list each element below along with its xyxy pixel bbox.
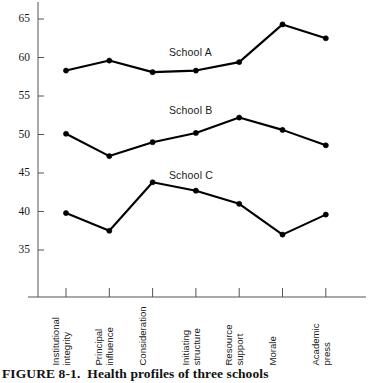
data-point [237,115,242,120]
x-category-line: Academic [311,324,322,366]
y-tick-label: 40 [4,206,30,218]
y-tick-label: 65 [4,13,30,25]
data-point [150,70,155,75]
y-tick-label: 50 [4,129,30,141]
figure-caption: FIGURE 8-1. Health profiles of three sch… [2,366,366,383]
y-axis-tick-labels: 35404550556065 [0,0,30,300]
data-point [150,180,155,185]
series-label-school-a: School A [169,46,212,58]
x-category-line: Institutional [51,317,62,366]
x-category-line: Consideration [138,307,149,366]
series-label-school-b: School B [169,104,213,116]
data-point [193,130,198,135]
figure-root: 35404550556065 School ASchool BSchool C … [0,0,368,383]
data-point [280,232,285,237]
data-point [323,143,328,148]
x-category-line: influence [106,328,117,366]
data-point [150,140,155,145]
data-point [323,212,328,217]
data-point [107,58,112,63]
data-point [280,22,285,27]
y-tick-label: 55 [4,90,30,102]
y-tick-label: 45 [4,167,30,179]
data-point [237,201,242,206]
x-category-line: Initiating [181,330,192,366]
data-point [107,228,112,233]
series-school-c [63,180,328,238]
data-point [280,127,285,132]
series-label-school-c: School C [169,169,213,181]
x-category-line: integrity [62,332,73,366]
data-point [63,210,68,215]
x-category-line: structure [192,329,203,366]
series-line [66,118,326,157]
x-category-line: support [236,334,247,366]
caption-text: Health profiles of three schools [87,366,268,381]
data-point [193,68,198,73]
data-point [63,68,68,73]
caption-separator: . [77,366,80,381]
x-axis-category-labels: InstitutionalintegrityPrincipalinfluence… [0,300,368,366]
data-point [63,131,68,136]
data-point [193,188,198,193]
y-tick-label: 60 [4,52,30,64]
data-point [323,36,328,41]
x-category-line: press [322,343,333,366]
data-point [107,153,112,158]
caption-number: FIGURE 8-1 [2,366,77,381]
chart-plot-area: 35404550556065 School ASchool BSchool C [0,0,368,300]
data-point [237,60,242,65]
series-school-b [63,115,328,159]
y-tick-label: 35 [4,244,30,256]
x-category-line: Morale [268,337,279,366]
